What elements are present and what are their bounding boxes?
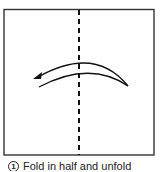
step-instruction: Fold in half and unfold bbox=[23, 160, 131, 171]
origami-diagram bbox=[0, 0, 160, 171]
step-number-badge: 1 bbox=[8, 161, 19, 172]
step-caption: 1 Fold in half and unfold bbox=[8, 159, 131, 171]
